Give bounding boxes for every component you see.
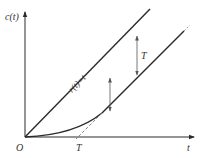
vertical-lag-label: T (141, 50, 148, 61)
origin-label: O (16, 142, 23, 153)
x-axis-label: t (187, 142, 190, 153)
y-axis-label: c(t) (5, 11, 20, 23)
horizontal-lag-label: T (76, 142, 83, 153)
output-line-tip-dash (184, 25, 190, 31)
ramp-response-diagram: c(t) t O T T r(t)=t (0, 0, 202, 158)
output-steady-state-line (102, 31, 184, 113)
input-ramp-line (25, 9, 150, 137)
